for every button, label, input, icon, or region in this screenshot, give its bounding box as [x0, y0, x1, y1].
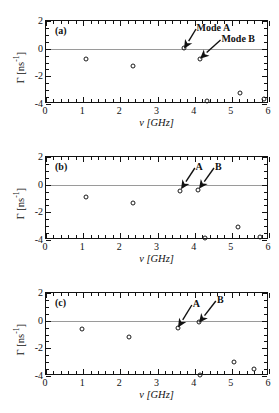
x-tick-bottom	[165, 99, 166, 102]
x-tick-bottom	[135, 371, 136, 374]
data-point-marker	[130, 63, 135, 68]
x-tick-top	[91, 157, 92, 160]
x-tick-top	[269, 157, 270, 162]
data-point-marker	[257, 234, 262, 239]
x-tick-bottom	[210, 99, 211, 102]
x-tick-label: 6	[266, 377, 271, 388]
x-tick-bottom	[128, 235, 129, 238]
x-tick-bottom	[262, 371, 263, 374]
x-tick-bottom	[113, 235, 114, 238]
x-tick-bottom	[120, 233, 121, 238]
x-axis-title: ν [GHz]	[45, 117, 268, 128]
x-tick-label: 0	[43, 241, 48, 252]
x-tick-top	[269, 21, 270, 26]
x-tick-top	[202, 157, 203, 160]
x-tick-bottom	[158, 97, 159, 102]
x-tick-bottom	[83, 97, 84, 102]
plot-frame-a: (a)Mode AMode B	[45, 20, 268, 103]
y-tick-right	[262, 293, 267, 294]
x-tick-top	[224, 293, 225, 296]
y-tick-right	[264, 307, 267, 308]
y-axis-title-exponent: -1	[12, 328, 21, 334]
x-tick-bottom	[254, 235, 255, 238]
x-tick-label: 3	[154, 241, 159, 252]
x-tick-top	[83, 21, 84, 26]
x-tick-bottom	[187, 99, 188, 102]
y-tick-left	[46, 362, 49, 363]
data-point-marker	[131, 201, 136, 206]
y-tick-right	[262, 157, 267, 158]
y-tick-left	[46, 219, 49, 220]
zero-reference-line	[46, 185, 267, 186]
x-tick-top	[269, 293, 270, 298]
y-tick-left	[46, 355, 49, 356]
y-tick-left	[46, 164, 49, 165]
y-tick-left	[46, 63, 49, 64]
y-tick-left	[46, 185, 51, 186]
y-tick-right	[264, 90, 267, 91]
x-tick-bottom	[165, 235, 166, 238]
plot-frame-b: (b)AB	[45, 156, 268, 239]
x-tick-bottom	[113, 99, 114, 102]
x-axis-title-text: ν [GHz]	[139, 253, 174, 264]
y-tick-left	[46, 205, 49, 206]
y-tick-left	[46, 69, 49, 70]
x-tick-bottom	[128, 99, 129, 102]
x-tick-bottom	[76, 99, 77, 102]
x-tick-top	[113, 293, 114, 296]
x-tick-label: 4	[191, 377, 196, 388]
x-tick-bottom	[91, 371, 92, 374]
y-tick-right	[264, 335, 267, 336]
y-tick-label: -2	[30, 206, 43, 217]
x-tick-bottom	[217, 99, 218, 102]
x-tick-top	[135, 157, 136, 160]
panel-label-a: (a)	[55, 25, 67, 36]
y-tick-left	[46, 171, 49, 172]
y-tick-left	[46, 35, 49, 36]
y-tick-right	[264, 83, 267, 84]
x-tick-top	[232, 21, 233, 26]
y-tick-left	[46, 314, 49, 315]
y-axis-title: Γ [ns-1]	[12, 300, 26, 380]
y-tick-label: 2	[30, 15, 43, 26]
x-tick-top	[172, 21, 173, 24]
x-tick-bottom	[53, 99, 54, 102]
x-tick-top	[239, 21, 240, 24]
y-tick-left	[46, 90, 49, 91]
x-tick-bottom	[150, 99, 151, 102]
x-tick-bottom	[232, 233, 233, 238]
x-tick-bottom	[105, 235, 106, 238]
x-tick-bottom	[247, 371, 248, 374]
x-tick-top	[61, 157, 62, 160]
x-tick-top	[105, 157, 106, 160]
x-tick-top	[120, 293, 121, 298]
x-tick-bottom	[158, 369, 159, 374]
data-point-marker	[83, 56, 88, 61]
x-tick-top	[232, 293, 233, 298]
x-tick-top	[128, 293, 129, 296]
x-tick-bottom	[269, 97, 270, 102]
data-point-marker	[126, 334, 131, 339]
y-tick-left	[46, 328, 49, 329]
x-tick-top	[158, 21, 159, 26]
x-tick-bottom	[68, 371, 69, 374]
y-tick-right	[264, 63, 267, 64]
x-tick-top	[83, 157, 84, 162]
x-tick-top	[247, 21, 248, 24]
x-tick-top	[247, 293, 248, 296]
x-tick-top	[76, 157, 77, 160]
y-tick-left	[46, 49, 51, 50]
x-tick-top	[165, 157, 166, 160]
y-axis-title-text: Γ [ns	[15, 62, 26, 84]
x-tick-bottom	[98, 99, 99, 102]
y-tick-right	[264, 300, 267, 301]
x-tick-top	[187, 293, 188, 296]
plot-panel-b: (b)AB012345620-2-4ν [GHz]Γ [ns-1]	[0, 136, 279, 274]
x-tick-bottom	[61, 235, 62, 238]
x-axis-title-text: ν [GHz]	[139, 389, 174, 400]
x-tick-bottom	[247, 99, 248, 102]
x-tick-bottom	[180, 235, 181, 238]
y-tick-left	[46, 307, 49, 308]
y-tick-left	[46, 56, 49, 57]
data-point-marker	[238, 90, 243, 95]
